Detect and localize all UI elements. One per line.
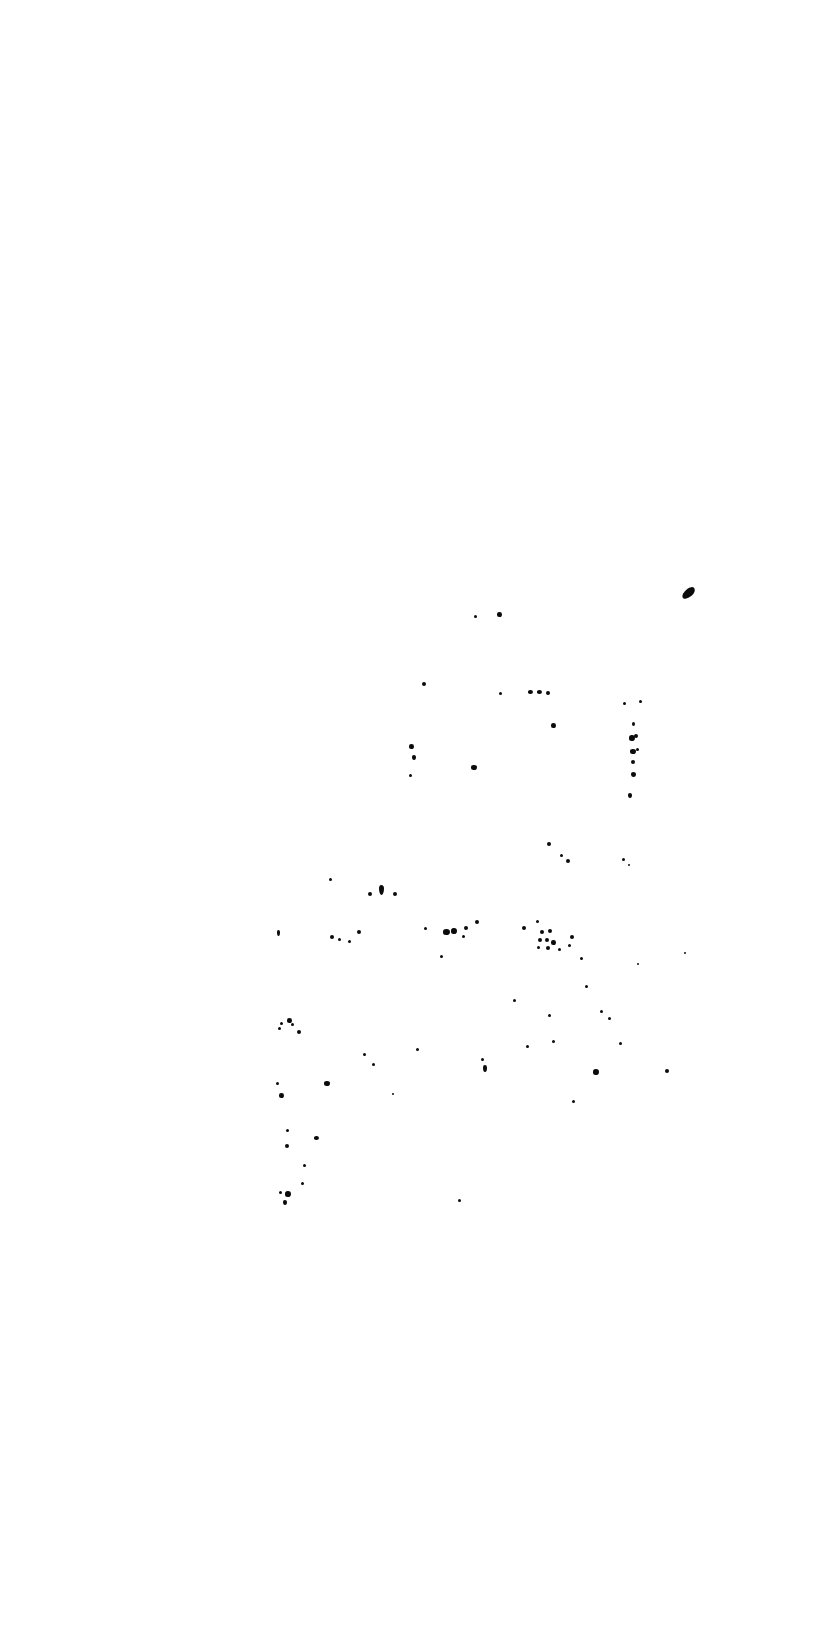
document-page: No legible text survives on this page; o… bbox=[0, 0, 821, 1642]
page-background bbox=[0, 0, 821, 1642]
